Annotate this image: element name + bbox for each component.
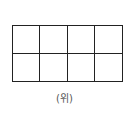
grid-cell bbox=[95, 54, 122, 82]
grid-cell bbox=[40, 26, 67, 54]
grid-cell bbox=[13, 54, 40, 82]
grid-diagram bbox=[12, 25, 123, 82]
grid-cell bbox=[68, 54, 95, 82]
grid-cell bbox=[68, 26, 95, 54]
grid-cell bbox=[40, 54, 67, 82]
grid-cell bbox=[13, 26, 40, 54]
diagram-caption: (위) bbox=[0, 90, 129, 105]
grid-cell bbox=[95, 26, 122, 54]
